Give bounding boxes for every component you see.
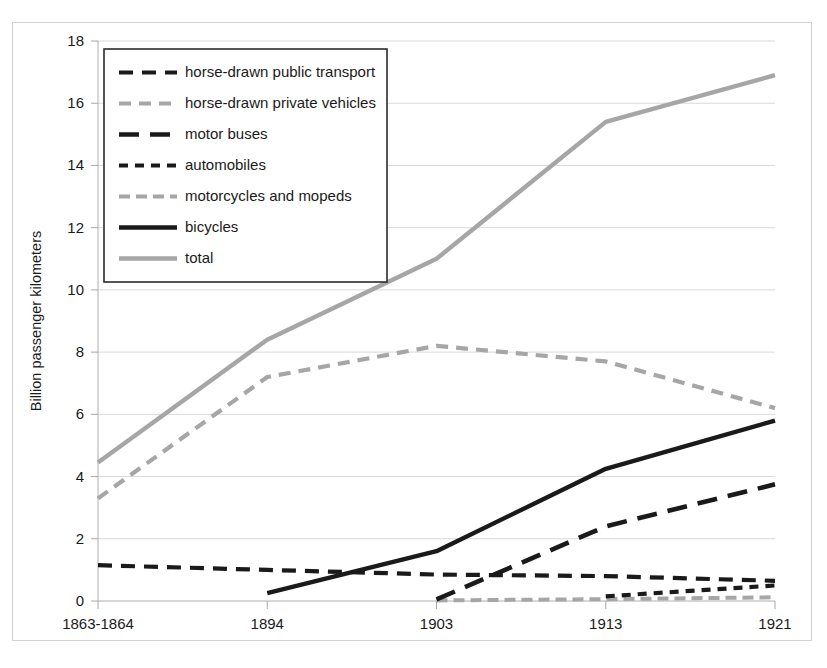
x-tick-1913: 1913 <box>589 615 622 632</box>
y-axis-tick-labels: 024681012141618 <box>67 32 84 609</box>
legend-label-automobiles: automobiles <box>185 156 266 173</box>
legend-label-total: total <box>185 249 213 266</box>
x-axis-tick-labels: 1863-18641894190319131921 <box>62 615 792 632</box>
y-tick-16: 16 <box>67 94 84 111</box>
y-tick-12: 12 <box>67 219 84 236</box>
series-line-horse-drawn-public-transport <box>98 565 775 581</box>
chart-legend: horse-drawn public transporthorse-drawn … <box>104 49 387 282</box>
y-tick-2: 2 <box>76 530 84 547</box>
chart-frame: 024681012141618 1863-1864189419031913192… <box>12 22 812 641</box>
series-line-motor-buses <box>437 484 776 599</box>
y-tick-0: 0 <box>76 592 84 609</box>
legend-label-horse-drawn-private-vehicles: horse-drawn private vehicles <box>185 94 376 111</box>
chart-figure: 024681012141618 1863-1864189419031913192… <box>0 0 827 668</box>
series-line-automobiles <box>606 585 775 596</box>
x-tick-1894: 1894 <box>251 615 284 632</box>
legend-label-motorcycles-and-mopeds: motorcycles and mopeds <box>185 187 352 204</box>
legend-label-horse-drawn-public-transport: horse-drawn public transport <box>185 63 376 80</box>
x-tick-1903: 1903 <box>420 615 453 632</box>
legend-label-bicycles: bicycles <box>185 218 238 235</box>
y-tick-4: 4 <box>76 468 84 485</box>
y-tick-8: 8 <box>76 343 84 360</box>
legend-label-motor-buses: motor buses <box>185 125 268 142</box>
series-line-horse-drawn-private-vehicles <box>98 346 775 498</box>
series-line-bicycles <box>267 421 775 594</box>
series-line-motorcycles-and-mopeds <box>437 597 776 600</box>
y-tick-10: 10 <box>67 281 84 298</box>
y-tick-14: 14 <box>67 156 84 173</box>
y-tick-6: 6 <box>76 405 84 422</box>
x-tick-1921: 1921 <box>758 615 791 632</box>
y-axis-title: Billion passenger kilometers <box>28 231 44 412</box>
x-tick-1863-1864: 1863-1864 <box>62 615 134 632</box>
y-tick-18: 18 <box>67 32 84 49</box>
line-chart: 024681012141618 1863-1864189419031913192… <box>13 23 813 642</box>
